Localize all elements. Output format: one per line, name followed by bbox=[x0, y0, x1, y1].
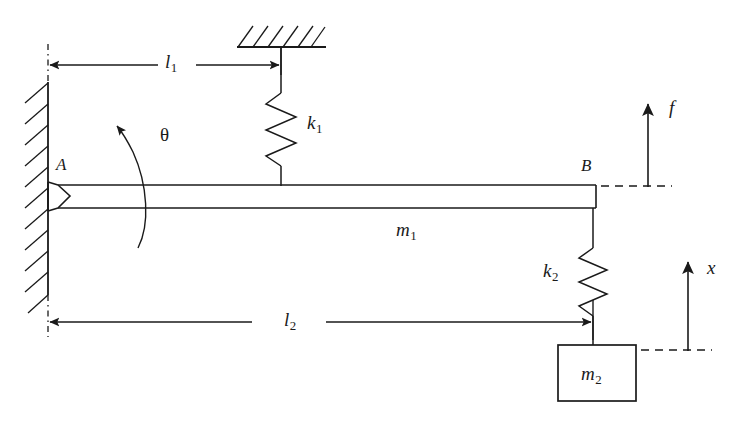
force-arrow-f bbox=[601, 104, 672, 187]
spring-k2 bbox=[579, 208, 607, 345]
label-spring-k2: k2 bbox=[543, 261, 558, 284]
label-force-f: f bbox=[669, 98, 674, 117]
label-angle-theta: θ bbox=[160, 125, 169, 144]
label-displacement-x: x bbox=[707, 258, 715, 277]
rigid-beam bbox=[58, 185, 596, 208]
label-mass-m2: m2 bbox=[581, 364, 602, 387]
label-length-l2: l2 bbox=[284, 310, 296, 333]
fixed-wall bbox=[25, 82, 48, 313]
rotation-arc-theta bbox=[117, 126, 146, 248]
label-mass-m1: m1 bbox=[396, 220, 417, 243]
pin-joint-at-a bbox=[48, 182, 70, 211]
dimension-line-l2 bbox=[50, 300, 593, 340]
label-point-a: A bbox=[56, 156, 66, 173]
displacement-arrow-x bbox=[641, 262, 712, 351]
label-length-l1: l1 bbox=[165, 52, 177, 75]
fixed-ceiling bbox=[237, 26, 326, 47]
figure-canvas: A B θ l1 l2 k1 k2 m1 m2 f x bbox=[0, 0, 731, 422]
label-point-b: B bbox=[581, 157, 591, 174]
label-spring-k1: k1 bbox=[307, 113, 322, 136]
schematic-drawing bbox=[0, 0, 731, 422]
